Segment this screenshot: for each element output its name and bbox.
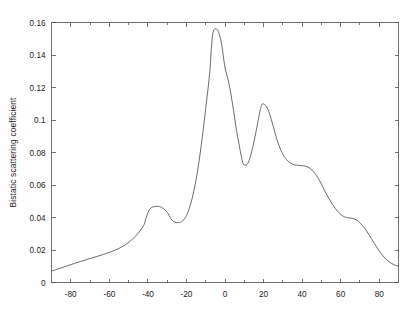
y-tick-label: 0.02: [30, 246, 46, 255]
y-axis-title-text: Bistatic scattering coefficient: [8, 97, 18, 208]
y-tick-label: 0.06: [30, 181, 46, 190]
bistatic-scattering-line-chart: -80-60-40-20020406080 00.020.040.060.080…: [0, 0, 417, 314]
chart-figure: -80-60-40-20020406080 00.020.040.060.080…: [0, 0, 417, 314]
x-tick-label: 20: [259, 290, 269, 299]
y-axis-title: Bistatic scattering coefficient: [8, 97, 18, 208]
x-tick-label: 40: [298, 290, 308, 299]
y-tick-label: 0.08: [30, 149, 46, 158]
y-tick-label: 0.04: [30, 214, 46, 223]
x-tick-label: 0: [223, 290, 228, 299]
figure-background: [0, 0, 417, 314]
x-axis-tick-labels: -80-60-40-20020406080: [65, 290, 384, 299]
x-tick-label: -60: [103, 290, 115, 299]
y-tick-label: 0.16: [30, 19, 46, 28]
x-tick-label: -20: [181, 290, 193, 299]
x-tick-label: 60: [336, 290, 346, 299]
y-tick-label: 0.1: [34, 116, 46, 125]
y-tick-label: 0.14: [30, 51, 46, 60]
y-tick-label: 0.12: [30, 84, 46, 93]
y-axis-tick-labels: 00.020.040.060.080.10.120.140.16: [30, 19, 46, 288]
x-tick-label: -80: [65, 290, 77, 299]
x-tick-label: -40: [142, 290, 154, 299]
y-tick-label: 0: [41, 279, 46, 288]
x-tick-label: 80: [375, 290, 385, 299]
